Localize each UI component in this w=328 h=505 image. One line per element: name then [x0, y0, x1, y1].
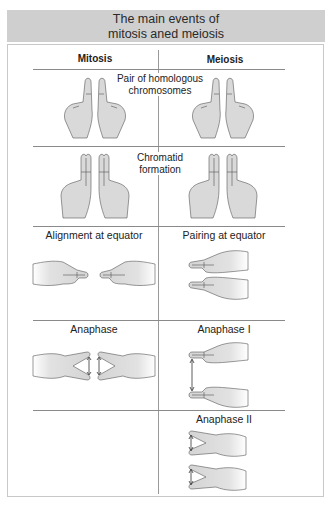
left-hand-v-fingers-icon — [33, 352, 90, 380]
row-rule-3 — [33, 320, 285, 321]
row-rule-4 — [33, 410, 285, 411]
mitosis-chromatid-hands-illustration — [55, 152, 135, 218]
separation-arrow-icon — [190, 359, 194, 391]
right-hand-two-fingers-up-icon — [99, 154, 129, 218]
column-divider — [158, 50, 159, 494]
row-rule-2 — [33, 226, 285, 227]
title-line-1: The main events of — [7, 12, 325, 27]
left-hand-index-up-icon — [64, 78, 92, 138]
mitosis-alignment-hands-illustration — [33, 258, 155, 292]
meiosis-label-anaphase-ii: Anaphase II — [165, 414, 283, 426]
lower-hand-pointing-left-icon — [189, 387, 248, 407]
upper-hand-pointing-left-icon — [189, 343, 248, 363]
right-hand-v-fingers-icon — [98, 352, 155, 380]
lower-hand-v-fingers-icon — [189, 465, 246, 490]
meiosis-label-pairing: Pairing at equator — [165, 230, 283, 242]
left-hand-index-up-icon — [192, 78, 220, 138]
meiosis-anaphase-ii-hands-illustration — [186, 431, 246, 491]
right-hand-two-fingers-up-icon — [227, 154, 257, 218]
left-hand-two-fingers-up-icon — [61, 154, 91, 218]
meiosis-homologous-hands-illustration — [183, 76, 263, 138]
right-hand-index-up-icon — [98, 78, 126, 138]
row-rule-1 — [33, 146, 285, 147]
right-hand-pointing-left-icon — [100, 261, 155, 285]
mitosis-label-alignment: Alignment at equator — [33, 230, 155, 242]
upper-hand-pointing-left-icon — [189, 251, 248, 273]
meiosis-anaphase-i-hands-illustration — [188, 342, 248, 408]
meiosis-label-anaphase-i: Anaphase I — [165, 324, 283, 336]
header-rule — [33, 69, 285, 70]
left-hand-two-fingers-up-icon — [189, 154, 219, 218]
left-hand-pointing-right-icon — [33, 261, 88, 285]
meiosis-pairing-hands-illustration — [188, 250, 248, 302]
mitosis-label-anaphase: Anaphase — [33, 324, 155, 336]
lower-hand-pointing-left-icon — [189, 277, 248, 299]
diagram-title: The main events of mitosis aned meiosis — [7, 10, 325, 42]
mitosis-anaphase-hands-illustration — [33, 350, 155, 382]
column-header-mitosis: Mitosis — [40, 53, 150, 64]
meiosis-chromatid-hands-illustration — [183, 152, 263, 218]
title-line-2: mitosis aned meiosis — [7, 27, 325, 42]
separation-arrow-icon — [87, 357, 101, 375]
mitosis-homologous-hands-illustration — [55, 76, 135, 138]
upper-hand-v-fingers-icon — [189, 431, 246, 456]
column-header-meiosis: Meiosis — [170, 54, 280, 65]
right-hand-index-up-icon — [226, 78, 254, 138]
